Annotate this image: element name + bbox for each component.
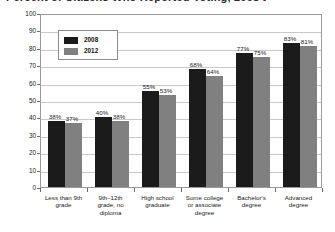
bar-value-label: 68% xyxy=(185,62,208,68)
bar-value-label: 53% xyxy=(155,88,178,94)
category-label-line: degree xyxy=(195,209,214,216)
bar-value-label: 64% xyxy=(202,69,225,75)
bar xyxy=(189,69,206,187)
x-tick-mark xyxy=(87,188,88,192)
x-tick-mark xyxy=(322,188,323,192)
category-label-line: grade xyxy=(56,201,72,208)
category-label-line: grade, no xyxy=(97,201,123,208)
gridline xyxy=(41,154,321,155)
category-label-line: degree xyxy=(289,201,308,208)
x-tick-mark xyxy=(134,188,135,192)
category-label: Advanceddegree xyxy=(271,194,326,209)
x-tick-mark xyxy=(40,188,41,192)
category-label-line: Bachelor's xyxy=(237,194,266,201)
chart-title: Percent of Citizens Who Reported Voting,… xyxy=(6,0,266,3)
bar xyxy=(95,117,112,187)
y-tick-label: 0 xyxy=(16,185,36,191)
gridline xyxy=(41,67,321,68)
category-label-line: 9th–12th xyxy=(98,194,122,201)
category-label-line: degree xyxy=(242,201,261,208)
bar xyxy=(300,46,317,187)
y-tick-label: 50 xyxy=(16,98,36,104)
y-tick-label: 100 xyxy=(16,11,36,17)
bar xyxy=(159,95,176,187)
legend-label-2012: 2012 xyxy=(84,48,98,54)
legend-label-2008: 2008 xyxy=(84,37,98,43)
bar xyxy=(206,76,223,187)
category-label-line: High school xyxy=(141,194,173,201)
gridline xyxy=(41,137,321,138)
bar xyxy=(65,123,82,187)
y-tick-label: 20 xyxy=(16,150,36,156)
y-tick-label: 30 xyxy=(16,133,36,139)
bar-value-label: 38% xyxy=(108,114,131,120)
bar xyxy=(48,121,65,187)
chart-legend: 2008 2012 xyxy=(58,30,118,60)
category-label-line: graduate xyxy=(145,201,169,208)
bar xyxy=(112,121,129,187)
bar-value-label: 81% xyxy=(296,39,319,45)
y-tick-label: 90 xyxy=(16,28,36,34)
category-label-line: or associate xyxy=(188,201,221,208)
bar xyxy=(283,43,300,187)
legend-item-2012: 2012 xyxy=(64,46,117,57)
x-tick-mark xyxy=(181,188,182,192)
bar-value-label: 37% xyxy=(61,116,84,122)
bar xyxy=(253,57,270,188)
x-tick-mark xyxy=(228,188,229,192)
y-tick-label: 70 xyxy=(16,63,36,69)
category-label-line: Some college xyxy=(186,194,224,201)
bar-chart: Percent of Citizens Who Reported Voting,… xyxy=(0,0,335,232)
category-label-line: diploma xyxy=(100,209,122,216)
bar xyxy=(236,53,253,187)
legend-item-2008: 2008 xyxy=(64,35,117,46)
y-tick-label: 10 xyxy=(16,168,36,174)
category-label-line: Less than 9th xyxy=(45,194,82,201)
gridline xyxy=(41,102,321,103)
gridline xyxy=(41,85,321,86)
legend-swatch-icon-2012 xyxy=(64,48,78,55)
x-tick-mark xyxy=(275,188,276,192)
y-tick-label: 80 xyxy=(16,46,36,52)
y-tick-label: 60 xyxy=(16,81,36,87)
bar xyxy=(142,91,159,187)
gridline xyxy=(41,172,321,173)
bar-value-label: 75% xyxy=(249,50,272,56)
legend-swatch-icon-2008 xyxy=(64,37,78,44)
category-label-line: Advanced xyxy=(285,194,313,201)
y-tick-label: 40 xyxy=(16,115,36,121)
